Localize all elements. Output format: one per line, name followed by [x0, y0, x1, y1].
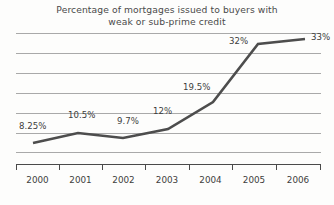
x-axis-label-2006: 2006	[276, 175, 320, 186]
point-label-2006: 33%	[311, 33, 330, 42]
point-label-2005: 32%	[229, 37, 248, 46]
point-label-2002: 9.7%	[117, 117, 139, 126]
plot-area	[16, 30, 321, 156]
series-polyline	[33, 39, 305, 143]
x-axis-label-2004: 2004	[189, 175, 232, 186]
series-line	[16, 30, 321, 156]
x-axis-tick	[16, 164, 17, 170]
point-label-2000: 8.25%	[19, 122, 46, 131]
point-label-2004: 19.5%	[183, 83, 210, 92]
x-axis-tick	[276, 164, 277, 170]
x-axis-tick	[320, 164, 321, 170]
x-axis-tick	[145, 164, 146, 170]
x-axis	[16, 164, 321, 172]
point-label-2003: 12%	[153, 107, 172, 116]
chart-title: Percentage of mortgages issued to buyers…	[0, 4, 334, 27]
chart-title-line-1: Percentage of mortgages issued to buyers…	[0, 4, 334, 16]
x-axis-label-2002: 2002	[102, 175, 145, 186]
x-axis-label-2005: 2005	[232, 175, 276, 186]
x-axis-tick	[189, 164, 190, 170]
chart-figure: Percentage of mortgages issued to buyers…	[0, 0, 334, 205]
point-label-2001: 10.5%	[68, 111, 95, 120]
x-axis-label-2001: 2001	[59, 175, 102, 186]
x-axis-tick	[232, 164, 233, 170]
x-axis-tick	[59, 164, 60, 170]
x-axis-labels: 2000 2001 2002 2003 2004 2005 2006	[16, 175, 321, 189]
x-axis-label-2000: 2000	[16, 175, 59, 186]
x-axis-tick	[102, 164, 103, 170]
chart-title-line-2: weak or sub-prime credit	[0, 16, 334, 28]
x-axis-label-2003: 2003	[145, 175, 189, 186]
